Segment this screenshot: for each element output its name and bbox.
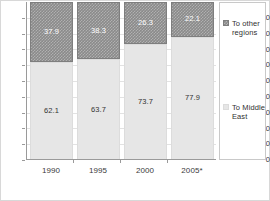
- y-axis-line: [26, 2, 27, 160]
- legend-item-to-other-regions[interactable]: To other regions: [223, 19, 266, 37]
- bar-segment-to-middle-east[interactable]: 77.9: [171, 37, 214, 160]
- y-tick-mark: [22, 49, 25, 50]
- x-tick-mark: [120, 160, 121, 163]
- legend-swatch-icon: [223, 104, 229, 110]
- bar-value-label: 77.9: [185, 94, 200, 102]
- legend: To other regions To Middle East: [219, 2, 266, 160]
- bar-value-label: 63.7: [91, 106, 106, 114]
- bar-segment-to-middle-east[interactable]: 63.7: [77, 59, 120, 160]
- x-tick-label-2005: 2005*: [162, 166, 222, 175]
- y-tick-mark: [22, 81, 25, 82]
- legend-swatch-icon: [223, 20, 229, 26]
- y-tick-mark: [22, 34, 25, 35]
- legend-label: To Middle East: [232, 103, 266, 121]
- legend-label: To other regions: [232, 19, 266, 37]
- bar-value-label: 37.9: [44, 28, 59, 36]
- plot-area: 62.1 37.9 63.7 38.3 73.7 26.3: [26, 2, 216, 160]
- y-tick-mark: [22, 144, 25, 145]
- legend-item-to-middle-east[interactable]: To Middle East: [223, 103, 266, 121]
- y-tick-mark: [22, 160, 25, 161]
- bar-segment-to-other-regions[interactable]: 26.3: [124, 2, 167, 44]
- bar-value-label: 73.7: [138, 98, 153, 106]
- y-tick-mark: [22, 18, 25, 19]
- bar-value-label: 62.1: [44, 107, 59, 115]
- bar-segment-to-other-regions[interactable]: 37.9: [30, 2, 73, 62]
- bar-segment-to-other-regions[interactable]: 22.1: [171, 2, 214, 37]
- bar-segment-to-other-regions[interactable]: 38.3: [77, 2, 120, 59]
- bar-segment-to-middle-east[interactable]: 62.1: [30, 62, 73, 160]
- bar-value-label: 38.3: [91, 27, 106, 35]
- x-tick-mark: [167, 160, 168, 163]
- y-tick-mark: [22, 113, 25, 114]
- y-tick-mark: [22, 65, 25, 66]
- stacked-bar-chart: 90 80 70 60 50 40 30 20 10 0: [0, 0, 270, 201]
- bar-segment-to-middle-east[interactable]: 73.7: [124, 44, 167, 160]
- y-tick-mark: [22, 97, 25, 98]
- bar-value-label: 26.3: [138, 19, 153, 27]
- bar-value-label: 22.1: [185, 15, 200, 23]
- x-axis-line: [26, 159, 216, 160]
- y-tick-mark: [22, 128, 25, 129]
- x-tick-mark: [73, 160, 74, 163]
